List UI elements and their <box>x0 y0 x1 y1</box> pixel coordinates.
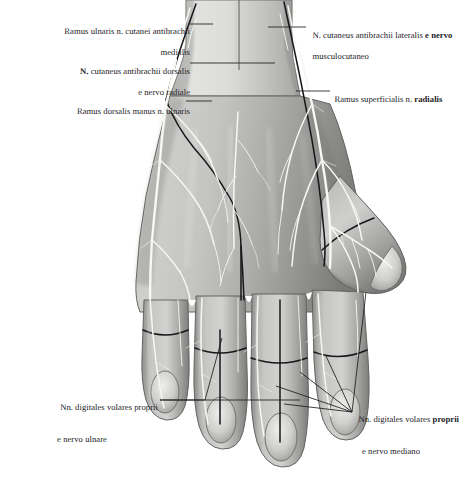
label-line-1-bold: N. <box>80 66 88 76</box>
label-n-cutaneus-antibrachii-lateralis-musculocutaneo: N. cutaneus antibrachii lateralis e nerv… <box>308 20 474 62</box>
label-line-2: e nervo ulnare <box>6 434 158 444</box>
label-ramus-ulnaris-cutanei-antibrachii-medialis: Ramus ulnaris n. cutanei antibrachii med… <box>4 16 190 58</box>
label-line-1-a: N. cutaneus antibrachii lateralis <box>312 30 425 40</box>
label-line-1-rest: cutaneus antibrachii dorsalis <box>89 66 191 76</box>
label-line-1-b-bold: radialis <box>414 94 442 104</box>
label-n-cutaneus-antibrachii-dorsalis-radiale: N. cutaneus antibrachii dorsalis e nervo… <box>12 56 190 98</box>
label-line-1: Nn. digitales volares proprii <box>60 402 158 412</box>
label-ramus-superficialis-n-radialis: Ramus superficialis n. radialis <box>330 84 475 105</box>
thumb <box>320 176 406 294</box>
label-line-1-a: Nn. digitales volares <box>358 414 432 424</box>
label-nn-digitales-volares-proprii-ulnare: Nn. digitales volares proprii e nervo ul… <box>6 392 158 454</box>
label-line-1-b-bold: proprii <box>433 414 459 424</box>
label-line-1: Ramus dorsalis manus n. ulnaris <box>77 106 190 116</box>
label-nn-digitales-volares-proprii-mediano: Nn. digitales volares proprii e nervo me… <box>354 404 475 466</box>
finger-middle <box>251 294 309 467</box>
label-line-2: e nervo mediano <box>354 446 475 456</box>
label-line-2: musculocutaneo <box>312 51 369 61</box>
label-ramus-dorsalis-manus-n-ulnaris: Ramus dorsalis manus n. ulnaris <box>8 96 190 117</box>
label-line-1: Ramus ulnaris n. cutanei antibrachii <box>64 26 190 36</box>
label-line-1-b-bold: e nervo <box>425 30 452 40</box>
label-line-1-a: Ramus superficialis n. <box>334 94 414 104</box>
